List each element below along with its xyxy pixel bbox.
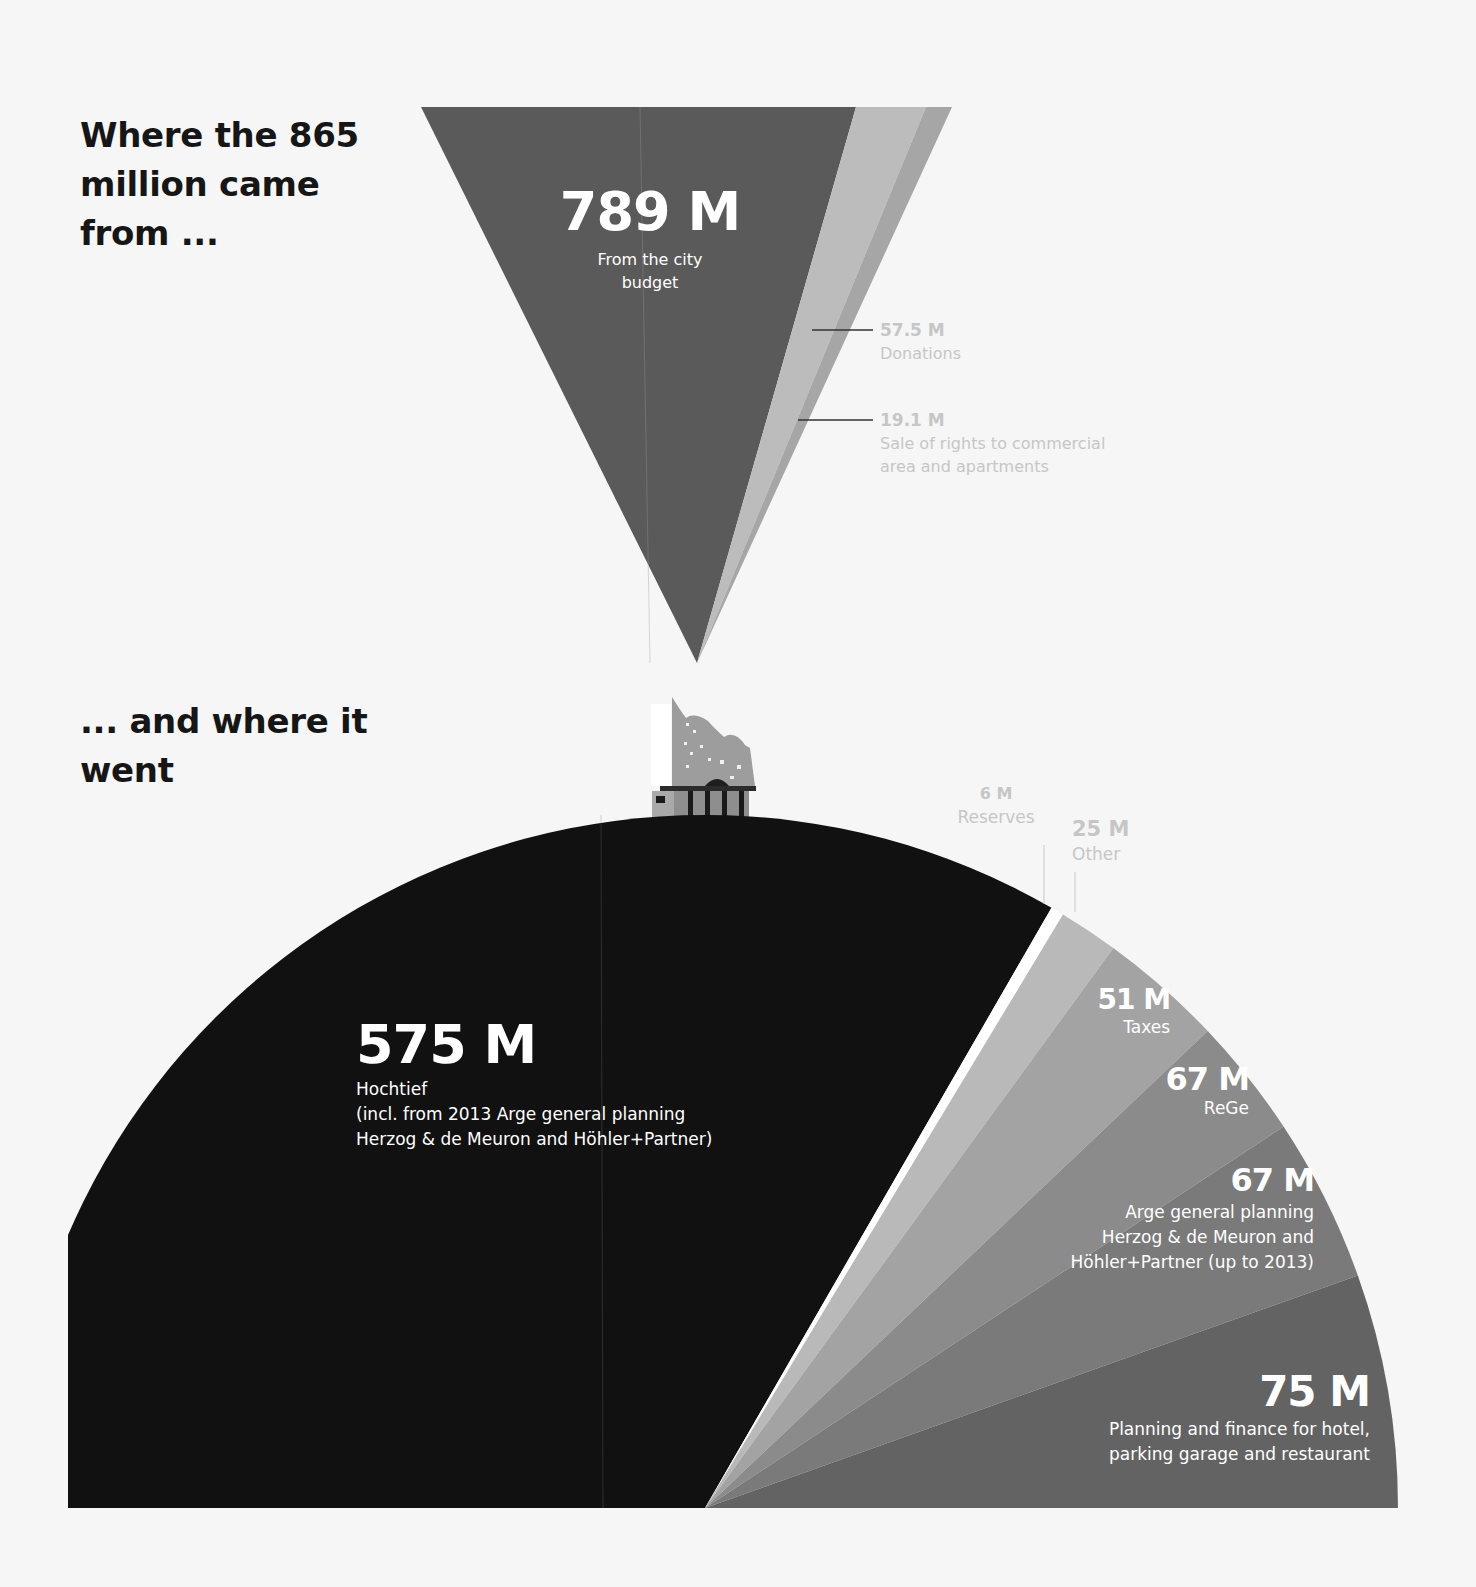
value-sale-rights: 19.1 M bbox=[880, 408, 1130, 432]
text-planning-2: parking garage and restaurant bbox=[1109, 1442, 1370, 1467]
callout-sale-rights: 19.1 M Sale of rights to commercial area… bbox=[880, 408, 1130, 478]
text-arge-1: Arge general planning bbox=[1070, 1200, 1314, 1225]
text-hochtief-note-1: (incl. from 2013 Arge general planning bbox=[356, 1102, 712, 1127]
value-city-budget: 789 M bbox=[540, 180, 760, 244]
callout-donations: 57.5 M Donations bbox=[880, 318, 961, 365]
value-hochtief: 575 M bbox=[356, 1013, 712, 1077]
value-rege: 67 M bbox=[1165, 1060, 1249, 1098]
text-arge-3: Höhler+Partner (up to 2013) bbox=[1070, 1250, 1314, 1275]
value-other: 25 M bbox=[1072, 816, 1129, 843]
text-other: Other bbox=[1072, 843, 1129, 866]
label-city-budget: 789 M From the city budget bbox=[540, 180, 760, 294]
value-donations: 57.5 M bbox=[880, 318, 961, 342]
text-reserves: Reserves bbox=[948, 806, 1044, 829]
text-rege: ReGe bbox=[1165, 1098, 1249, 1118]
text-sale-rights: Sale of rights to commercial area and ap… bbox=[880, 432, 1130, 478]
callout-other: 25 M Other bbox=[1072, 816, 1129, 866]
text-hochtief-note-2: Herzog & de Meuron and Höhler+Partner) bbox=[356, 1127, 712, 1152]
text-hochtief: Hochtief bbox=[356, 1077, 712, 1102]
callout-reserves: 6 M Reserves bbox=[948, 782, 1044, 829]
value-reserves: 6 M bbox=[948, 782, 1044, 806]
text-donations: Donations bbox=[880, 342, 961, 365]
label-taxes: 51 M Taxes bbox=[1097, 983, 1170, 1037]
label-hochtief: 575 M Hochtief (incl. from 2013 Arge gen… bbox=[356, 1013, 712, 1152]
label-arge: 67 M Arge general planning Herzog & de M… bbox=[1070, 1160, 1314, 1275]
value-taxes: 51 M bbox=[1097, 983, 1170, 1017]
text-arge-2: Herzog & de Meuron and bbox=[1070, 1225, 1314, 1250]
value-planning: 75 M bbox=[1109, 1367, 1370, 1417]
label-rege: 67 M ReGe bbox=[1165, 1060, 1249, 1118]
label-planning: 75 M Planning and finance for hotel, par… bbox=[1109, 1367, 1370, 1467]
text-city-budget: From the city budget bbox=[585, 248, 715, 294]
value-arge: 67 M bbox=[1070, 1160, 1314, 1200]
text-taxes: Taxes bbox=[1097, 1017, 1170, 1037]
elbphilharmonie-building-icon bbox=[651, 697, 756, 817]
text-planning-1: Planning and finance for hotel, bbox=[1109, 1417, 1370, 1442]
